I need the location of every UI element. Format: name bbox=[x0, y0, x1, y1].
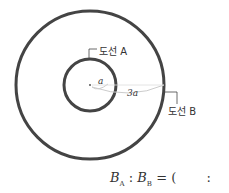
open-paren: ( bbox=[171, 170, 176, 185]
radius-a-label: a bbox=[98, 76, 103, 86]
concentric-wires-diagram bbox=[0, 0, 229, 193]
answer-colon: : bbox=[207, 170, 211, 185]
subscript-a: A bbox=[120, 180, 125, 188]
wire-a-label: 도선 A bbox=[99, 43, 127, 58]
center-point bbox=[89, 84, 91, 86]
ratio-formula: BA : BB = ( : bbox=[110, 170, 211, 188]
radius-3a-label: 3a bbox=[127, 88, 138, 98]
b-b-symbol: B bbox=[137, 170, 147, 185]
equals-sign: = bbox=[156, 170, 167, 185]
subscript-b: B bbox=[147, 180, 152, 188]
ratio-colon: : bbox=[129, 170, 133, 185]
b-a-symbol: B bbox=[110, 170, 120, 185]
wire-b-label: 도선 B bbox=[168, 103, 196, 118]
